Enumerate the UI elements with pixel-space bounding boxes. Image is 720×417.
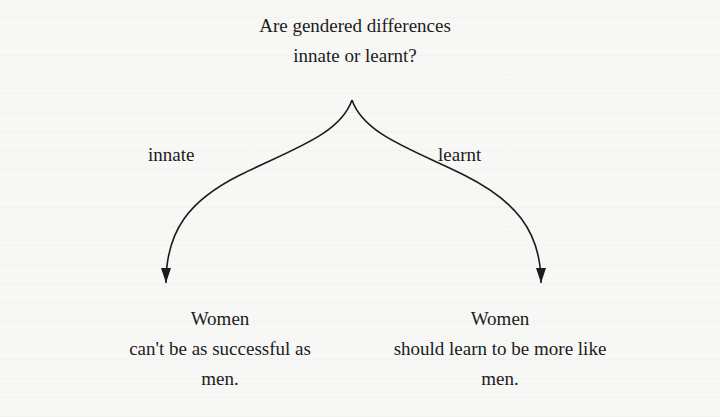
- arrow-innate: [166, 100, 352, 283]
- outcome-learnt: Women should learn to be more like men.: [370, 304, 630, 394]
- branch-label-learnt: learnt: [438, 140, 481, 170]
- outcome-innate-line-1: Women: [120, 304, 320, 334]
- outcome-innate-line-3: men.: [120, 364, 320, 394]
- outcome-innate: Women can't be as successful as men.: [120, 304, 320, 394]
- outcome-learnt-line-1: Women: [370, 304, 630, 334]
- branch-label-innate: innate: [148, 140, 194, 170]
- arrow-head-learnt: [536, 268, 546, 283]
- outcome-innate-line-2: can't be as successful as: [120, 334, 320, 364]
- arrow-head-innate: [161, 268, 171, 283]
- outcome-learnt-line-3: men.: [370, 364, 630, 394]
- arrow-learnt: [352, 100, 541, 283]
- outcome-learnt-line-2: should learn to be more like: [370, 334, 630, 364]
